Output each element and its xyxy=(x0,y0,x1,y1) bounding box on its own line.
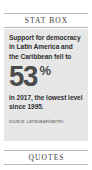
section-header-stat-box: STAT BOX xyxy=(4,13,88,28)
stat-figure: 53 % xyxy=(9,62,83,90)
percent-sign: % xyxy=(40,64,52,77)
stat-value: 53 xyxy=(9,62,37,90)
stat-source-credit: SOURCE: Latinobarómetro xyxy=(9,120,83,124)
stat-intro-text: Support for democracy in Latin America a… xyxy=(9,33,83,61)
stat-outro-text: in 2017, the lowest level since 1995. xyxy=(9,93,83,112)
stat-card: Support for democracy in Latin America a… xyxy=(4,29,88,141)
section-header-quotes: QUOTES xyxy=(4,150,88,165)
stat-box-widget: STAT BOX Support for democracy in Latin … xyxy=(0,13,92,170)
